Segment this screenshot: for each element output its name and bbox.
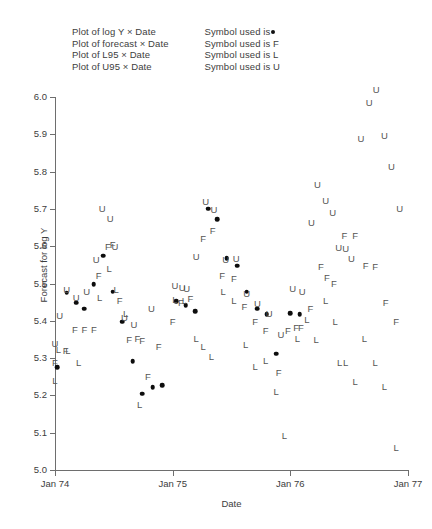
data-point-u95: U [183,284,190,294]
data-point-u95: U [342,244,349,254]
data-point-forecast: F [145,373,151,383]
data-point-u95: U [373,86,380,96]
data-point-l95: L [106,265,111,275]
x-tick [55,470,56,476]
data-point-u95: U [202,197,209,207]
data-point-u95: U [93,256,100,266]
data-point-forecast: F [91,325,97,335]
data-point-l95: L [114,285,119,295]
data-point-forecast: F [285,326,291,336]
data-point-u95: U [396,204,403,214]
data-point-l95: L [97,293,102,303]
data-point-l95: L [352,378,357,388]
data-point-u95: U [172,282,179,292]
data-point-forecast: F [276,368,282,378]
data-point-l95: L [394,443,399,453]
y-tick-label: 5.1 [34,428,47,438]
y-tick [50,284,55,285]
data-point-l95: L [332,317,337,327]
y-tick-label: 5.3 [34,353,47,363]
data-point-forecast: F [187,294,193,304]
data-point-l95: L [263,356,268,366]
data-point-log-y [82,307,87,312]
data-point-l95: L [182,297,187,307]
legend-symbol-label: Symbol used is [205,26,281,38]
plot-area: 5.05.15.25.35.45.55.65.75.85.96.0 Jan 74… [55,97,408,470]
data-point-forecast: F [117,297,123,307]
legend-symbol-label: Symbol used is U [205,61,281,73]
data-point-l95: L [362,334,367,344]
data-point-u95: U [388,162,395,172]
data-point-l95: L [65,347,70,357]
data-point-forecast: F [72,325,78,335]
data-point-log-y [101,253,106,258]
forecast-scatter-plot: Plot of log Y × Date Plot of forecast × … [0,0,432,529]
data-point-u95: U [335,243,342,253]
data-point-forecast: F [170,317,176,327]
y-tick [50,433,55,434]
x-tick-label: Jan 75 [158,479,187,489]
data-point-u95: U [329,208,336,218]
data-point-forecast: F [324,273,330,283]
data-point-u95: U [148,304,155,314]
data-point-forecast: F [307,304,313,314]
x-tick [173,470,174,476]
legend-symbol-label: Symbol used is F [205,38,281,50]
data-point-l95: L [343,358,348,368]
data-point-u95: U [254,299,261,309]
legend-series-label: Plot of forecast × Date [72,38,169,50]
y-tick-label: 5.5 [34,279,47,289]
data-point-forecast: F [393,317,399,327]
y-axis-title: Forecast for log Y [38,227,49,302]
y-tick-label: 6.0 [34,92,47,102]
data-point-forecast: F [200,235,206,245]
data-point-u95: U [73,293,80,303]
x-axis-title: Date [55,498,408,509]
data-point-l95: L [274,388,279,398]
data-point-u95: U [322,196,329,206]
y-tick-label: 5.9 [34,130,47,140]
legend-symbol-label: Symbol used is L [205,49,281,61]
data-point-l95: L [295,334,300,344]
data-point-l95: L [304,315,309,325]
x-tick [408,470,409,476]
data-point-u95: U [63,285,70,295]
data-point-u95: U [112,242,119,252]
data-point-l95: L [194,334,199,344]
data-point-u95: U [130,321,137,331]
data-point-l95: L [172,296,177,306]
y-tick-label: 5.8 [34,167,47,177]
data-point-l95: L [76,358,81,368]
x-tick-label: Jan 76 [276,479,305,489]
data-point-u95: U [56,312,63,322]
data-point-u95: U [308,218,315,228]
legend-symbol-text: Symbol used is [205,26,271,37]
data-point-l95: L [252,363,257,373]
data-point-l95: L [231,297,236,307]
data-point-log-y [215,217,220,222]
data-point-forecast: F [342,231,348,241]
data-point-forecast: F [298,323,304,333]
data-point-forecast: F [231,274,237,284]
data-point-forecast: F [126,335,132,345]
data-point-forecast: F [363,261,369,271]
filled-circle-icon [271,30,275,34]
data-point-forecast: F [352,231,358,241]
y-tick [50,172,55,173]
data-point-log-y [297,312,302,317]
data-point-l95: L [314,335,319,345]
y-tick-label: 5.4 [34,316,47,326]
data-point-forecast: F [96,271,102,281]
data-point-u95: U [289,284,296,294]
y-tick-label: 5.7 [34,204,47,214]
data-point-u95: U [266,309,273,319]
data-point-u95: U [366,98,373,108]
data-point-u95: U [193,253,200,263]
data-point-u95: U [83,287,90,297]
data-point-forecast: F [210,227,216,237]
y-tick [50,134,55,135]
y-tick [50,209,55,210]
data-point-u95: U [99,204,106,214]
data-point-l95: L [382,382,387,392]
plot-legend: Plot of log Y × Date Plot of forecast × … [72,26,280,72]
